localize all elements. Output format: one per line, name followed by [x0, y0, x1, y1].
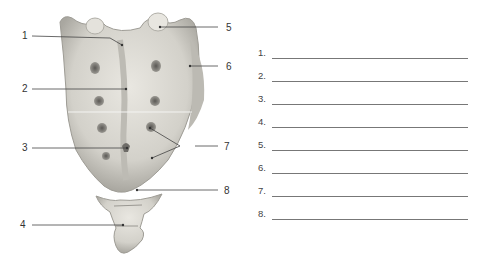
sacrum-illustration: 1 2 3 4 5 6 7 8 [0, 0, 250, 261]
answer-blank-2[interactable] [272, 81, 468, 82]
answer-blank-6[interactable] [272, 173, 468, 174]
callout-8: 8 [224, 186, 230, 196]
callout-7: 7 [224, 142, 230, 152]
answer-blank-1[interactable] [272, 58, 468, 59]
answer-row-3[interactable]: 3. [258, 94, 468, 106]
callout-2: 2 [22, 84, 28, 94]
answer-row-7[interactable]: 7. [258, 186, 468, 198]
answer-blank-8[interactable] [272, 219, 468, 220]
coccyx-shape [96, 194, 162, 253]
answer-label-2: 2. [258, 71, 266, 81]
answer-label-8: 8. [258, 209, 266, 219]
answer-row-1[interactable]: 1. [258, 48, 468, 60]
answer-blank-3[interactable] [272, 104, 468, 105]
answer-blank-5[interactable] [272, 150, 468, 151]
answer-label-1: 1. [258, 48, 266, 58]
answer-label-7: 7. [258, 186, 266, 196]
answer-row-5[interactable]: 5. [258, 140, 468, 152]
answer-row-6[interactable]: 6. [258, 163, 468, 175]
answer-row-4[interactable]: 4. [258, 117, 468, 129]
callout-3: 3 [22, 143, 28, 153]
answer-label-3: 3. [258, 94, 266, 104]
answer-blank-4[interactable] [272, 127, 468, 128]
callout-5: 5 [226, 23, 232, 33]
answer-blank-7[interactable] [272, 196, 468, 197]
callout-6: 6 [226, 62, 232, 72]
bone-drawing [0, 0, 250, 261]
answer-row-2[interactable]: 2. [258, 71, 468, 83]
callout-4: 4 [20, 220, 26, 230]
answer-row-8[interactable]: 8. [258, 209, 468, 221]
answer-label-6: 6. [258, 163, 266, 173]
sacrum-shape [60, 17, 199, 193]
answer-label-4: 4. [258, 117, 266, 127]
callout-1: 1 [22, 31, 28, 41]
answer-label-5: 5. [258, 140, 266, 150]
